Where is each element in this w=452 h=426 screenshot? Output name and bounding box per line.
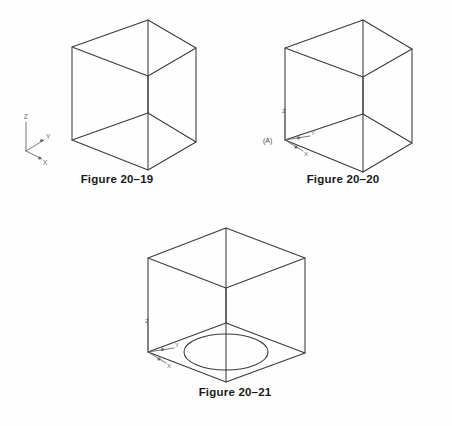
figure-20-19-drawing: Z Y X: [0, 0, 230, 200]
axis-lines: [285, 108, 310, 151]
axis-label-x: X: [304, 151, 308, 157]
axis-label-y: Y: [175, 342, 179, 348]
cube-bottom-face: [285, 114, 412, 172]
cube-top-rim: [72, 20, 196, 76]
axis-label-z: Z: [24, 113, 28, 120]
axis-indicator: Z Y X: [145, 318, 179, 369]
axis-arrow-x: [38, 157, 41, 160]
axis-line-x: [285, 140, 303, 151]
axis-indicator: Z Y X: [24, 113, 51, 166]
figure-20-20: Z Y X (A) Figure 20–20: [230, 0, 452, 200]
axis-arrow-y: [40, 139, 43, 142]
axis-label-z: Z: [145, 318, 149, 324]
cube-bottom-face: [72, 113, 196, 170]
axis-label-x: X: [167, 363, 171, 369]
cube-wireframe: [72, 20, 196, 170]
figure-20-21: Z Y X Figure 20–21: [110, 205, 350, 426]
axis-label-z: Z: [282, 108, 286, 114]
axis-arrow-y: [297, 136, 300, 139]
axis-origin-label: (A): [263, 137, 272, 145]
figure-20-20-caption: Figure 20–20: [268, 173, 418, 185]
figure-20-19: Z Y X Figure 20–19: [0, 0, 230, 200]
axis-arrow-x: [294, 145, 297, 148]
figure-20-20-drawing: Z Y X (A): [230, 0, 452, 200]
axis-label-y: Y: [46, 133, 51, 140]
axis-arrow-x: [157, 357, 160, 360]
axis-label-y: Y: [311, 130, 315, 136]
cube-top-rim: [285, 20, 412, 77]
axis-label-x: X: [43, 159, 48, 166]
figure-20-19-caption: Figure 20–19: [42, 173, 192, 185]
cube-wireframe: [285, 20, 412, 172]
cube-wireframe: [148, 228, 305, 382]
figure-20-21-caption: Figure 20–21: [160, 386, 310, 398]
axis-lines: [148, 318, 174, 363]
axis-arrow-y: [161, 348, 164, 351]
